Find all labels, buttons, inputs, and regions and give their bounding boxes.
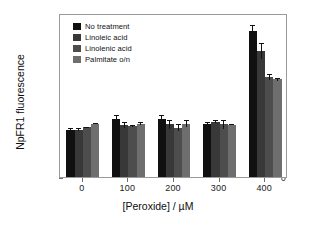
error-bar <box>75 128 83 177</box>
error-bar <box>83 127 91 177</box>
x-tick-label: 100 <box>120 183 136 193</box>
error-bar-line <box>186 120 187 128</box>
error-bar-cap <box>229 124 234 125</box>
error-bar <box>137 122 145 177</box>
error-bar-cap <box>68 128 73 129</box>
legend-label: Linoleic acid <box>85 33 127 42</box>
x-tick-mark <box>264 178 265 182</box>
error-bar-cap <box>138 122 143 123</box>
error-bar-cap <box>259 43 264 44</box>
y-axis <box>0 0 59 225</box>
error-bar <box>249 25 257 177</box>
error-bar <box>174 124 182 177</box>
error-bar <box>182 120 190 177</box>
error-bar <box>203 122 211 177</box>
error-bar-cap <box>213 120 218 121</box>
legend-label: Palmitate o/n <box>85 55 130 64</box>
error-bar-line <box>261 43 262 59</box>
error-bar <box>158 115 166 177</box>
error-bar-cap <box>84 127 89 128</box>
error-bar-cap <box>184 120 189 121</box>
x-tick-mark <box>219 178 220 182</box>
error-bar-line <box>161 115 162 123</box>
error-bar <box>211 120 219 177</box>
legend-swatch-icon <box>73 34 81 41</box>
error-bar-cap <box>176 124 181 125</box>
error-bar <box>91 123 99 177</box>
error-bar-line <box>116 115 117 124</box>
error-bar <box>257 43 265 177</box>
y-tick-mark <box>59 178 63 179</box>
figure: NpFR1 fluorescence 0500100015002000 0100… <box>0 0 316 225</box>
error-bar <box>220 120 228 177</box>
x-tick-mark <box>173 178 174 182</box>
error-bar <box>112 115 120 177</box>
error-bar-cap <box>93 123 98 124</box>
x-tick-label: 0 <box>79 183 84 193</box>
x-axis-label: [Peroxide] / µM <box>0 200 316 212</box>
error-bar-cap <box>205 122 210 123</box>
plot-area: No treatmentLinoleic acidLinolenic acidP… <box>59 14 287 178</box>
error-bar-line <box>169 120 170 129</box>
error-bar <box>128 125 136 177</box>
error-bar-cap <box>267 74 272 75</box>
error-bar-cap <box>76 128 81 129</box>
legend-swatch-icon <box>73 56 81 63</box>
legend-swatch-icon <box>73 23 81 30</box>
legend-label: No treatment <box>85 22 130 31</box>
legend-item: Linolenic acid <box>73 44 132 54</box>
x-tick-label: 400 <box>256 183 272 193</box>
legend-item: Palmitate o/n <box>73 55 132 65</box>
error-bar-cap <box>221 120 226 121</box>
error-bar-cap <box>275 78 280 79</box>
error-bar <box>273 78 281 177</box>
x-tick-mark <box>82 178 83 182</box>
legend-item: No treatment <box>73 22 132 32</box>
error-bar <box>265 74 273 177</box>
x-tick-label: 200 <box>165 183 181 193</box>
error-bar-cap <box>114 115 119 116</box>
legend-item: Linoleic acid <box>73 33 132 43</box>
error-bar-cap <box>122 122 127 123</box>
error-bar <box>66 128 74 177</box>
error-bar-cap <box>159 115 164 116</box>
error-bar-line <box>178 124 179 131</box>
error-bar <box>228 124 236 177</box>
error-bar-line <box>252 25 253 36</box>
error-bar-cap <box>167 120 172 121</box>
error-bar-cap <box>130 125 135 126</box>
legend: No treatmentLinoleic acidLinolenic acidP… <box>70 20 135 68</box>
legend-swatch-icon <box>73 45 81 52</box>
legend-label: Linolenic acid <box>85 44 132 53</box>
x-tick-label: 300 <box>211 183 227 193</box>
x-tick-mark <box>127 178 128 182</box>
y-axis-label: NpFR1 fluorescence <box>14 27 26 177</box>
error-bar <box>120 122 128 177</box>
error-bar-line <box>223 120 224 129</box>
error-bar-cap <box>250 25 255 26</box>
error-bar <box>166 120 174 177</box>
